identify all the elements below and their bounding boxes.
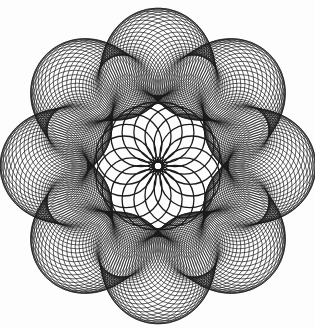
spirograph-canvas [0,0,315,329]
spirograph-drawing [0,0,315,329]
